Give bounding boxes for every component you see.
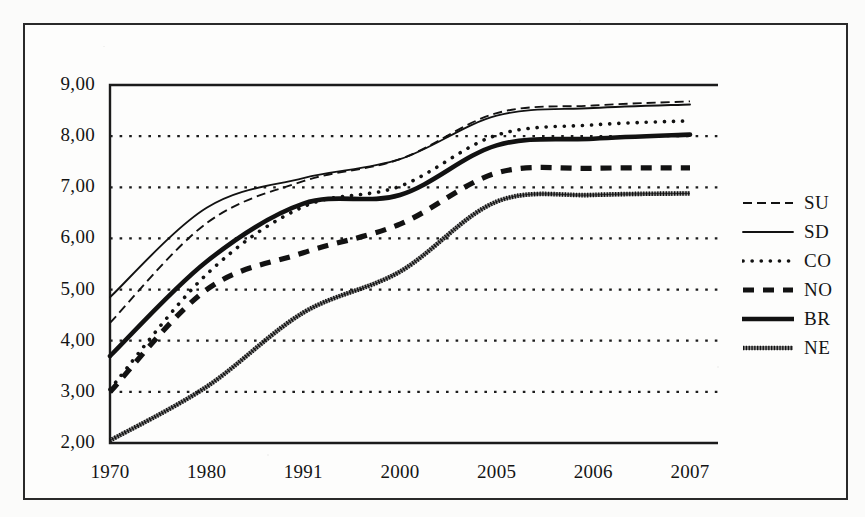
- x-axis-tick-label: 1970: [70, 461, 150, 483]
- legend-key-br-icon: [742, 312, 794, 326]
- series-lines: [110, 101, 690, 440]
- legend-label: SD: [804, 221, 829, 243]
- legend-key-su-icon: [742, 196, 794, 210]
- y-axis-tick-label: 6,00: [33, 226, 95, 248]
- y-axis-tick-label: 3,00: [33, 380, 95, 402]
- series-line-no: [110, 167, 690, 391]
- legend-key-co-icon: [742, 254, 794, 268]
- chart-figure: 9,008,007,006,005,004,003,002,00 1970198…: [0, 0, 865, 517]
- legend-key-sd-icon: [742, 225, 794, 239]
- legend-label: CO: [804, 250, 831, 272]
- chart-plot-area: [0, 0, 865, 517]
- y-axis-tick-label: 8,00: [33, 124, 95, 146]
- x-axis-tick-label: 1991: [263, 461, 343, 483]
- legend-item-su[interactable]: SU: [742, 188, 832, 217]
- legend: SUSDCONOBRNE: [742, 188, 832, 362]
- legend-label: NO: [804, 279, 832, 301]
- series-line-co: [110, 121, 690, 390]
- legend-label: SU: [804, 192, 829, 214]
- x-axis-tick-label: 2007: [650, 461, 730, 483]
- x-axis-tick-label: 2006: [553, 461, 633, 483]
- legend-item-ne[interactable]: NE: [742, 333, 832, 362]
- y-axis-tick-label: 5,00: [33, 278, 95, 300]
- y-axis-tick-label: 4,00: [33, 329, 95, 351]
- y-axis-tick-label: 9,00: [33, 73, 95, 95]
- legend-key-ne-icon: [742, 341, 794, 355]
- gridlines: [110, 136, 718, 443]
- y-axis-tick-label: 7,00: [33, 175, 95, 197]
- x-axis-tick-label: 2005: [457, 461, 537, 483]
- legend-key-no-icon: [742, 283, 794, 297]
- legend-item-br[interactable]: BR: [742, 304, 832, 333]
- x-axis-tick-label: 1980: [167, 461, 247, 483]
- legend-item-no[interactable]: NO: [742, 275, 832, 304]
- x-axis-tick-label: 2000: [360, 461, 440, 483]
- legend-label: BR: [804, 308, 830, 330]
- legend-label: NE: [804, 337, 830, 359]
- legend-item-co[interactable]: CO: [742, 246, 832, 275]
- y-axis-tick-label: 2,00: [33, 431, 95, 453]
- legend-item-sd[interactable]: SD: [742, 217, 832, 246]
